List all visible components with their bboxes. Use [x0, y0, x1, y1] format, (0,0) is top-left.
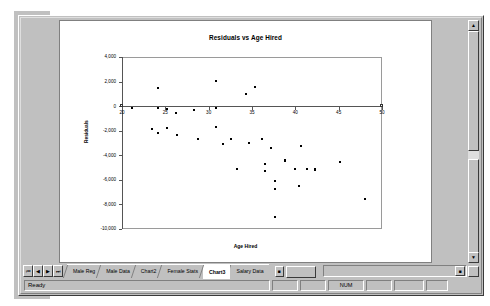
- scroll-down-icon[interactable]: ▼: [468, 252, 479, 263]
- last-sheet-icon[interactable]: ⏭: [53, 265, 63, 277]
- scatter-point: [306, 168, 308, 170]
- y-tick-label: 2,000: [60, 79, 116, 84]
- screenshot-root: Residuals vs Age Hired 4,0002,0000-2,000…: [0, 0, 490, 306]
- scatter-point: [175, 112, 177, 114]
- status-indicator-empty: [426, 280, 448, 291]
- x-tick-label: 40: [293, 110, 298, 115]
- scatter-point: [157, 87, 159, 89]
- x-tick-label: 25: [163, 110, 168, 115]
- scatter-point: [157, 107, 159, 109]
- scatter-point: [314, 169, 316, 171]
- x-tick-label: 30: [206, 110, 211, 115]
- chart-sheet-area: Residuals vs Age Hired 4,0002,0000-2,000…: [23, 20, 461, 263]
- sheet-tab-salary-data[interactable]: Salary Data: [230, 264, 268, 278]
- status-indicator-empty: [300, 280, 326, 291]
- y-axis-title: Residuals: [84, 120, 89, 143]
- y-tick-label: 4,000: [60, 54, 116, 59]
- scatter-point: [264, 163, 266, 165]
- chart-canvas[interactable]: Residuals vs Age Hired 4,0002,0000-2,000…: [59, 20, 432, 263]
- scatter-point: [274, 180, 276, 182]
- y-tick-label: -10,000: [60, 226, 116, 231]
- scrollbar-thumb-lower[interactable]: [468, 159, 479, 254]
- scatter-point: [284, 160, 286, 162]
- scatter-point: [364, 198, 366, 200]
- sheet-tab-male-data[interactable]: Male Data: [100, 264, 135, 278]
- y-tick-mark: [119, 57, 122, 58]
- y-tick-label: -6,000: [60, 177, 116, 182]
- scroll-corner-icon[interactable]: [468, 266, 479, 277]
- scatter-point: [131, 107, 133, 109]
- scatter-point: [274, 216, 276, 218]
- scatter-point: [166, 108, 168, 110]
- scatter-point: [261, 138, 263, 140]
- scatter-point: [245, 93, 247, 95]
- scroll-up-icon[interactable]: ▲: [468, 20, 479, 31]
- x-tick-label: 45: [336, 110, 341, 115]
- tab-extra-controls: ■: [275, 265, 316, 278]
- scatter-point: [230, 138, 232, 140]
- scatter-point: [215, 126, 217, 128]
- scatter-point: [270, 147, 272, 149]
- scatter-point: [215, 80, 217, 82]
- status-indicator-empty: [394, 280, 424, 291]
- chart-title: Residuals vs Age Hired: [60, 34, 431, 41]
- scatter-point: [215, 107, 217, 109]
- next-sheet-icon[interactable]: ▶: [43, 265, 53, 277]
- sheet-tabs: Male RegMale DataChart2Female StatsChart…: [67, 264, 316, 278]
- y-tick-mark: [119, 131, 122, 132]
- window-client-area: Residuals vs Age Hired 4,0002,0000-2,000…: [20, 17, 482, 294]
- scatter-point: [264, 170, 266, 172]
- spreadsheet-window: Residuals vs Age Hired 4,0002,0000-2,000…: [18, 15, 484, 296]
- y-tick-mark: [119, 229, 122, 230]
- scatter-point: [157, 132, 159, 134]
- y-tick-label: -8,000: [60, 202, 116, 207]
- scatter-point: [166, 127, 168, 129]
- status-bar: Ready NUM: [23, 279, 481, 292]
- y-tick-mark: [119, 82, 122, 83]
- series-endpoint-marker: [380, 104, 383, 107]
- scatter-point: [197, 138, 199, 140]
- scrollbar-track[interactable]: [468, 31, 479, 252]
- x-axis-title: Age Hired: [60, 243, 431, 249]
- scatter-point: [298, 185, 300, 187]
- status-message: Ready: [24, 280, 270, 291]
- first-sheet-icon[interactable]: ⏮: [23, 265, 33, 277]
- scatter-point: [236, 168, 238, 170]
- sheet-tab-male-reg[interactable]: Male Reg: [67, 264, 100, 278]
- scrollbar-thumb[interactable]: [468, 31, 479, 151]
- tab-bar-spacer: [286, 266, 316, 278]
- tab-nav-buttons: ⏮ ◀ ▶ ⏭: [23, 265, 63, 277]
- scatter-point: [193, 109, 195, 111]
- plot-area-frame: [122, 57, 382, 229]
- x-tick-label: 20: [119, 110, 124, 115]
- scatter-point: [254, 86, 256, 88]
- tab-horizontal-scrollbar[interactable]: ■: [323, 265, 467, 277]
- status-indicator-empty: [272, 280, 298, 291]
- scatter-point: [300, 145, 302, 147]
- scatter-point: [151, 128, 153, 130]
- tab-scroll-right-icon[interactable]: ■: [455, 266, 465, 276]
- scatter-point: [176, 134, 178, 136]
- y-tick-mark: [119, 204, 122, 205]
- tab-overflow-icon[interactable]: ■: [275, 266, 284, 277]
- x-tick-label: 35: [249, 110, 254, 115]
- scatter-point: [248, 142, 250, 144]
- vertical-scrollbar[interactable]: ▲ ▼: [468, 20, 479, 263]
- scatter-point: [222, 143, 224, 145]
- scatter-point: [294, 168, 296, 170]
- status-indicator-empty: [366, 280, 392, 291]
- y-tick-label: 0: [60, 104, 116, 109]
- sheet-tab-bar: ⏮ ◀ ▶ ⏭ Male RegMale DataChart2Female St…: [23, 264, 481, 278]
- prev-sheet-icon[interactable]: ◀: [33, 265, 43, 277]
- y-tick-mark: [119, 155, 122, 156]
- sheet-tab-female-stats[interactable]: Female Stats: [161, 264, 203, 278]
- sheet-tab-chart3[interactable]: Chart3: [203, 264, 230, 279]
- y-tick-label: -4,000: [60, 153, 116, 158]
- scatter-point: [339, 161, 341, 163]
- y-tick-mark: [119, 180, 122, 181]
- x-tick-label: 50: [379, 110, 384, 115]
- status-indicators: NUM: [270, 280, 448, 291]
- y-axis-line: [122, 57, 123, 229]
- status-indicator-num: NUM: [328, 280, 364, 291]
- scatter-point: [274, 188, 276, 190]
